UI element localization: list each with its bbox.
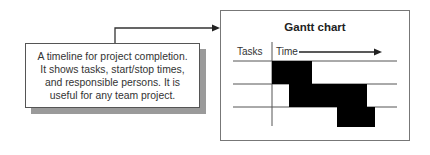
time-arrowhead-icon [374,49,382,56]
task-bar-1 [272,61,312,84]
task-bar-3 [337,107,375,127]
task-bar-2 [289,84,367,107]
gantt-chart-graphic [0,0,430,155]
